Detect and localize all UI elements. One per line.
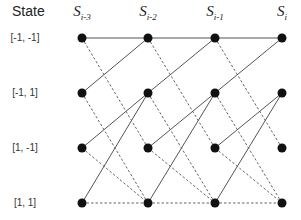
state-node	[144, 199, 153, 208]
trellis-edges	[82, 38, 282, 203]
state-node	[211, 144, 220, 153]
transition-edge-dashed	[148, 148, 215, 203]
transition-edge-dashed	[148, 38, 215, 148]
transition-edge-solid	[148, 38, 215, 93]
state-node	[211, 199, 220, 208]
state-node	[278, 144, 287, 153]
transition-edge-solid	[82, 93, 148, 148]
state-node	[144, 144, 153, 153]
state-node	[211, 34, 220, 43]
trellis-diagram	[0, 0, 301, 220]
transition-edge-solid	[148, 93, 215, 148]
state-node	[144, 89, 153, 98]
transition-edge-solid	[215, 38, 282, 93]
state-node	[78, 89, 87, 98]
state-node	[78, 199, 87, 208]
transition-edge-dashed	[215, 148, 282, 203]
state-node	[211, 89, 220, 98]
transition-edge-solid	[215, 93, 282, 148]
state-node	[278, 89, 287, 98]
state-node	[78, 34, 87, 43]
transition-edge-solid	[82, 38, 148, 93]
state-node	[278, 34, 287, 43]
transition-edge-dashed	[82, 38, 148, 148]
transition-edge-dashed	[215, 38, 282, 148]
transition-edge-dashed	[82, 148, 148, 203]
state-node	[144, 34, 153, 43]
state-node	[278, 199, 287, 208]
state-node	[78, 144, 87, 153]
